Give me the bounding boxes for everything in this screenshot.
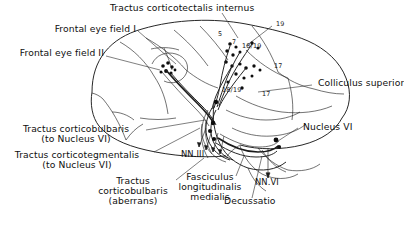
label-fasciculus-longitudinalis-medialis: Fasciculus longitudinalis medialis (172, 172, 248, 202)
nucleus-vi-marker (274, 138, 282, 149)
pericruciate-loop (152, 53, 188, 83)
label-tractus-corticobulbaris-line2: (to Nucleus VI) (8, 134, 144, 144)
brainstem-outline (213, 104, 306, 170)
label-nn-vi: NN.VI (255, 178, 279, 187)
area-18-19-upper: 18/19 (242, 42, 261, 50)
label-tractus-corticobulbaris: Tractus corticobulbaris (to Nucleus VI) (8, 124, 144, 144)
label-colliculus-superior: Colliculus superior (318, 78, 404, 88)
label-tractus-corticotectalis-internus: Tractus corticotectalis internus (110, 3, 254, 13)
label-fasciculus-longitudinalis-line3: medialis (172, 192, 248, 202)
label-nucleus-vi: Nucleus VI (303, 122, 352, 132)
occipital-sulci (236, 26, 344, 120)
colliculus-superior-marker (214, 100, 218, 104)
label-tractus-corticotegmentalis: Tractus corticotegmentalis (to Nucleus V… (2, 150, 152, 170)
area-18-19-lower: 18/19 (222, 86, 241, 94)
area-5: 5 (218, 30, 222, 38)
nn-vi-arrow (266, 148, 270, 178)
area-19: 19 (276, 20, 285, 28)
area-17-lower: 17 (262, 90, 271, 98)
label-frontal-eye-field-ii: Frontal eye field II (0, 48, 104, 58)
dorsal-sulci (120, 26, 228, 120)
area-7: 7 (232, 38, 236, 46)
label-nn-iii: NN.III (181, 150, 204, 159)
label-frontal-eye-field-i: Frontal eye field I (0, 24, 136, 34)
fasciculus-longitudinalis-medialis-fibers (216, 134, 279, 157)
area-17-upper: 17 (274, 62, 283, 70)
label-tractus-corticotegmentalis-line2: (to Nucleus VI) (2, 160, 152, 170)
